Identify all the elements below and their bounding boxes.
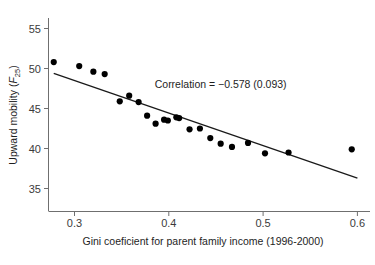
data-point xyxy=(165,117,171,123)
data-point xyxy=(197,125,203,131)
data-point xyxy=(136,99,142,105)
data-point xyxy=(76,63,82,69)
data-point xyxy=(262,150,268,156)
y-tick-label: 50 xyxy=(29,63,41,75)
x-tick-label: 0.5 xyxy=(255,217,270,229)
correlation-annotation: Correlation = −0.578 (0.093) xyxy=(155,78,287,90)
x-tick-label: 0.3 xyxy=(67,217,82,229)
y-axis-title-close: ) xyxy=(7,65,19,69)
x-tick-label: 0.6 xyxy=(350,217,365,229)
data-point xyxy=(102,71,108,77)
plot-background xyxy=(0,0,375,265)
chart-figure: 55 50 45 40 35 0.3 0.4 0.5 0.6 Gini coef… xyxy=(0,0,375,265)
data-point xyxy=(90,69,96,75)
y-tick-label: 35 xyxy=(29,183,41,195)
data-point xyxy=(51,59,57,65)
scatter-plot: 55 50 45 40 35 0.3 0.4 0.5 0.6 Gini coef… xyxy=(0,0,375,265)
y-axis-title-subscript: 25 xyxy=(13,69,22,77)
x-axis-title: Gini coeficient for parent family income… xyxy=(82,235,323,247)
y-tick-label: 55 xyxy=(29,23,41,35)
data-point xyxy=(126,93,132,99)
data-point xyxy=(117,98,123,104)
data-point xyxy=(285,149,291,155)
data-point xyxy=(349,146,355,152)
y-axis-title-main: Upward mobility ( xyxy=(7,83,19,165)
data-point xyxy=(186,126,192,132)
data-point xyxy=(207,135,213,141)
data-point xyxy=(176,115,182,121)
y-tick-label: 40 xyxy=(29,143,41,155)
y-tick-label: 45 xyxy=(29,103,41,115)
x-tick-label: 0.4 xyxy=(161,217,176,229)
data-point xyxy=(153,121,159,127)
data-point xyxy=(144,113,150,119)
data-point xyxy=(229,144,235,150)
data-point xyxy=(218,141,224,147)
data-point xyxy=(245,140,251,146)
